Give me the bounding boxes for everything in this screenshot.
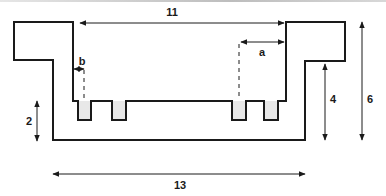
label-11: 11 [166, 6, 178, 18]
label-6: 6 [367, 93, 373, 105]
label-13: 13 [174, 179, 186, 191]
tooth-3 [233, 101, 245, 119]
tooth-4 [265, 101, 277, 119]
channel-outline [14, 22, 345, 140]
label-a: a [259, 46, 266, 58]
label-2: 2 [26, 115, 32, 127]
label-4: 4 [330, 93, 337, 105]
diagram-canvas: 11 a b 4 6 2 13 [0, 0, 386, 196]
label-b: b [79, 55, 86, 67]
tooth-2 [113, 101, 125, 119]
tooth-1 [79, 101, 90, 119]
teeth [79, 101, 277, 119]
